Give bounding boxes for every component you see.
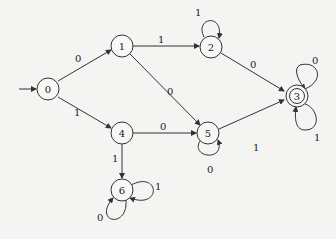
state-1[interactable]: 1 [111,35,133,57]
state-diagram: 0 1 1 0 1 0 0 1 0 1 1 0 1 0 0 1 2 3 4 5 … [0,0,336,239]
state-5[interactable]: 5 [197,122,219,144]
edge-label-0-1: 0 [75,53,81,64]
state-6[interactable]: 6 [111,179,133,201]
edge-label-1-2: 1 [158,34,164,45]
state-6-label: 6 [119,185,125,196]
edge-label-4-6: 1 [112,153,118,164]
edge-label-5-3: 1 [253,142,259,153]
edge-1-5 [130,54,200,125]
edge-0-4 [58,97,111,128]
edge-label-5-5: 0 [207,164,213,175]
state-3-accepting[interactable]: 3 [286,85,308,107]
edge-label-6-loop0: 0 [97,212,103,223]
edge-5-3 [219,100,284,129]
state-4[interactable]: 4 [111,122,133,144]
edge-label-3-loop0: 0 [312,55,318,66]
state-0[interactable]: 0 [37,78,59,100]
edge-label-1-5: 0 [167,86,173,97]
state-2[interactable]: 2 [200,36,222,58]
state-3-label: 3 [294,91,300,102]
state-0-label: 0 [45,84,51,95]
edge-label-0-4: 1 [74,107,80,118]
edge-label-3-loop1: 1 [314,132,320,143]
state-4-label: 4 [119,128,125,139]
edge-0-1 [58,50,111,81]
state-1-label: 1 [119,41,125,52]
state-5-label: 5 [205,128,211,139]
edge-label-2-2: 1 [195,7,201,18]
edge-label-6-loop1: 1 [155,181,161,192]
edge-label-2-3: 0 [250,59,256,70]
edge-label-4-5: 0 [160,121,166,132]
state-2-label: 2 [208,42,214,53]
loop-6-1 [130,182,153,201]
loop-2 [202,21,220,38]
loop-3-1 [295,104,316,130]
